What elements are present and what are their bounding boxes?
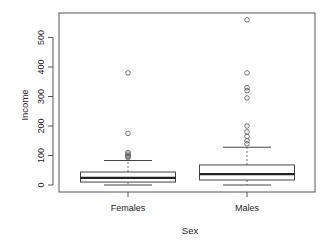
outlier-point [245,130,250,135]
y-tick-label: 500 [36,30,46,45]
outlier-point [245,134,250,139]
outlier-point [245,96,250,101]
outlier-point [126,71,131,76]
y-tick-label: 0 [36,182,46,187]
box-males [200,18,295,186]
y-axis-title: Income [19,89,30,120]
x-axis: FemalesMales [111,192,260,213]
boxplot-chart: 0100200300400500 FemalesMales Income Sex [0,0,334,245]
y-tick-label: 300 [36,89,46,104]
x-tick-label: Males [235,203,260,213]
y-tick-label: 400 [36,59,46,74]
outlier-point [245,71,250,76]
x-tick-label: Females [111,203,146,213]
outlier-point [245,18,250,23]
y-axis: 0100200300400500 [36,30,53,188]
outlier-point [245,141,250,146]
iqr-box [200,165,295,180]
box-females [81,71,176,185]
y-tick-label: 100 [36,148,46,163]
x-axis-title: Sex [182,225,199,236]
box-group [81,18,295,186]
outlier-point [126,131,131,136]
outlier-point [245,124,250,129]
outlier-point [245,88,250,93]
y-tick-label: 200 [36,118,46,133]
